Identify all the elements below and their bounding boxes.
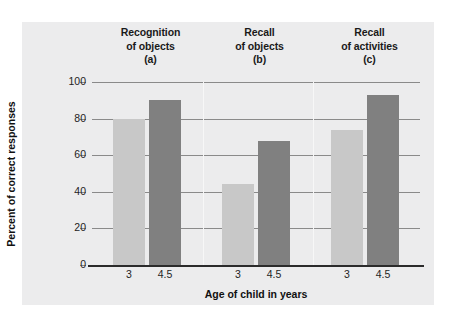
x-tick-label: 4.5 [143,268,187,280]
group-header-line: of activities [315,40,424,54]
x-axis-baseline [88,265,424,267]
group-header-line: (a) [96,53,205,67]
group-header-line: Recall [205,26,314,40]
group-header-line: Recognition [96,26,205,40]
y-tick-label: 100 [56,75,86,87]
bar [149,100,181,265]
y-tick-label: 60 [56,148,86,160]
plot-area [92,82,420,265]
group-header-line: of objects [96,40,205,54]
group-separator [203,82,204,265]
group-header-line: of objects [205,40,314,54]
bar [367,95,399,265]
group-header-line: (b) [205,53,314,67]
x-axis-tick-labels: 34.534.534.5 [92,268,420,284]
y-tick-label: 20 [56,221,86,233]
y-axis-ticks: 020406080100 [52,82,86,265]
y-tick-label: 0 [56,258,86,270]
gridline [92,82,420,83]
y-axis-title: Percent of correct responses [5,101,17,246]
x-tick-label: 4.5 [252,268,296,280]
bar [258,141,290,265]
bar [222,184,254,265]
bar [331,130,363,265]
x-tick-label: 4.5 [361,268,405,280]
group-header: Recognitionof objects(a) [96,26,205,67]
x-axis-title: Age of child in years [92,288,420,300]
group-separator [313,82,314,265]
y-tick-label: 40 [56,185,86,197]
group-header-line: (c) [315,53,424,67]
bar-chart-figure: Recognitionof objects(a)Recallof objects… [0,0,456,325]
y-tick-label: 80 [56,112,86,124]
y-axis-title-container: Percent of correct responses [0,82,22,265]
group-headers: Recognitionof objects(a)Recallof objects… [96,26,420,78]
group-header: Recallof objects(b) [205,26,314,67]
group-header-line: Recall [315,26,424,40]
group-header: Recallof activities(c) [315,26,424,67]
bar [113,119,145,265]
